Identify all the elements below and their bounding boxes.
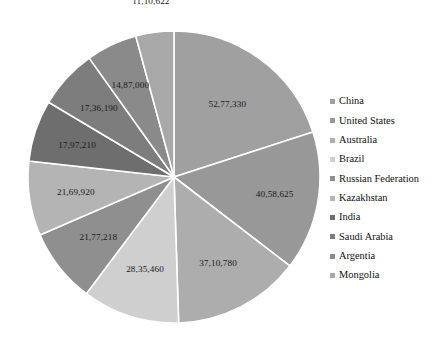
legend-item[interactable]: United States — [330, 111, 441, 130]
pie-slices-group — [28, 31, 320, 323]
legend-item-label: China — [339, 96, 364, 106]
legend-item-label: Mongolia — [339, 270, 379, 280]
pie-slice-value-label: 21,77,218 — [79, 232, 117, 242]
legend-color-swatch-icon — [330, 157, 335, 162]
pie-slice-value-label: 17,36,190 — [80, 103, 118, 113]
legend-item[interactable]: Brazil — [330, 150, 441, 169]
legend-color-swatch-icon — [330, 118, 335, 123]
legend-item-label: India — [339, 212, 360, 222]
legend-item-label: United States — [339, 116, 395, 126]
legend-color-swatch-icon — [330, 234, 335, 239]
pie-slice-value-label: 52,77,330 — [208, 99, 246, 109]
pie-slice-value-label: 28,35,460 — [126, 264, 164, 274]
legend-item[interactable]: China — [330, 92, 441, 111]
pie-slice-value-label: 37,10,780 — [199, 258, 237, 268]
legend-color-swatch-icon — [330, 176, 335, 181]
legend-item-label: Russian Federation — [339, 174, 419, 184]
legend-item[interactable]: Argentia — [330, 246, 441, 265]
legend-color-swatch-icon — [330, 273, 335, 278]
pie-chart: 52,77,33040,58,62537,10,78028,35,46021,7… — [0, 0, 441, 347]
legend-item[interactable]: Australia — [330, 131, 441, 150]
pie-slice-value-label: 40,58,625 — [256, 189, 294, 199]
legend-color-swatch-icon — [330, 99, 335, 104]
legend-item-label: Saudi Arabia — [339, 232, 393, 242]
legend-item[interactable]: Kazakhstan — [330, 188, 441, 207]
legend-color-swatch-icon — [330, 215, 335, 220]
legend-item[interactable]: Mongolia — [330, 266, 441, 285]
legend-item-label: Brazil — [339, 154, 364, 164]
legend-item-label: Argentia — [339, 251, 375, 261]
legend-color-swatch-icon — [330, 196, 335, 201]
pie-slice-value-label: 11,10,622 — [132, 0, 170, 6]
legend-item[interactable]: India — [330, 208, 441, 227]
pie-slice-value-label: 14,87,000 — [111, 80, 149, 90]
pie-slice-value-label: 17,97,210 — [58, 140, 96, 150]
chart-legend: ChinaUnited StatesAustraliaBrazilRussian… — [330, 92, 441, 285]
legend-item-label: Kazakhstan — [339, 193, 387, 203]
legend-item-label: Australia — [339, 135, 377, 145]
pie-slice-value-label: 21,69,920 — [57, 187, 95, 197]
legend-item[interactable]: Saudi Arabia — [330, 227, 441, 246]
legend-item[interactable]: Russian Federation — [330, 169, 441, 188]
legend-color-swatch-icon — [330, 138, 335, 143]
legend-color-swatch-icon — [330, 254, 335, 259]
